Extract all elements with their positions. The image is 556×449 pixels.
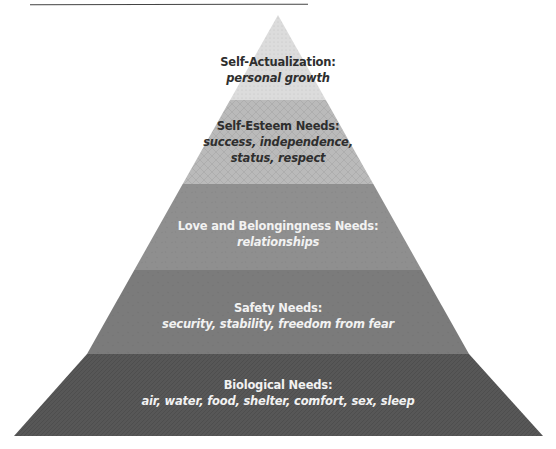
label-self-actualization: Self-Actualization: personal growth (0, 54, 556, 86)
label-safety: Safety Needs: security, stability, freed… (0, 300, 556, 332)
label-biological: Biological Needs: air, water, food, shel… (0, 377, 556, 409)
label-love-belonging: Love and Belongingness Needs: relationsh… (0, 218, 556, 250)
label-self-esteem: Self-Esteem Needs: success, independence… (0, 118, 556, 166)
